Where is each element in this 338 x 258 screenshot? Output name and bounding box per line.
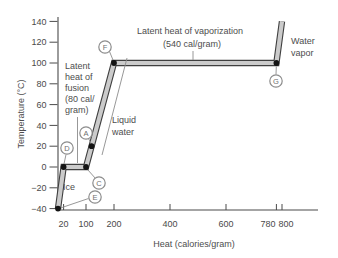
curve-dot-e	[55, 206, 61, 212]
point-f-leader	[110, 52, 114, 61]
x-tick-label: 800	[278, 219, 293, 229]
fusion-label: Latent heat of fusion (80 cal/ gram)	[65, 61, 95, 115]
fusion-label-line3: fusion	[65, 83, 89, 93]
point-marker-c: C	[93, 177, 105, 189]
fusion-label-line2: heat of	[65, 72, 93, 82]
fusion-label-line5: gram)	[65, 105, 89, 115]
point-marker-f: F	[99, 41, 111, 53]
y-tick-label: 80	[36, 79, 46, 89]
curve-dot-c	[83, 164, 89, 170]
point-marker-g: G	[270, 75, 282, 87]
liquid-water-label-line1: Liquid	[112, 115, 136, 125]
curve-dot-g	[274, 60, 280, 66]
y-tick-label: 100	[31, 58, 46, 68]
heating-curve-ribbon	[58, 21, 282, 208]
curve-dot-f	[111, 60, 117, 66]
heating-curve-chart: 140120100806040200−20−402010020040060078…	[0, 0, 338, 258]
point-d-leader	[64, 155, 66, 165]
point-marker-d: D	[61, 142, 73, 154]
x-tick-label: 200	[106, 219, 121, 229]
y-tick-label: 140	[31, 17, 46, 27]
y-tick-label: 20	[36, 141, 46, 151]
y-tick-label: −20	[31, 183, 46, 193]
point-d-label: D	[64, 144, 70, 153]
x-tick-label: 400	[162, 219, 177, 229]
y-axis-title: Temperature (°C)	[16, 79, 26, 148]
point-e-label: E	[92, 193, 97, 202]
fusion-label-line1: Latent	[65, 61, 91, 71]
point-c-label: C	[96, 179, 102, 188]
curve-dot-d	[61, 164, 67, 170]
water-vapor-label-line1: Water	[291, 36, 315, 46]
x-tick-label: 600	[218, 219, 233, 229]
liquid-water-label-line2: water	[111, 127, 134, 137]
curve-dot-a	[89, 143, 95, 149]
point-marker-e: E	[89, 191, 101, 203]
x-tick-label: 100	[78, 219, 93, 229]
x-tick-label: 20	[59, 219, 69, 229]
curve-outline	[58, 21, 282, 208]
x-axis-title: Heat (calories/gram)	[153, 239, 235, 249]
water-vapor-label-line2: vapor	[291, 48, 314, 58]
y-tick-label: 40	[36, 121, 46, 131]
y-tick-label: −40	[31, 204, 46, 214]
point-e-leader	[61, 199, 89, 209]
y-tick-label: 0	[41, 162, 46, 172]
y-tick-label: 60	[36, 100, 46, 110]
point-c-leader	[88, 170, 96, 179]
fusion-label-line4: (80 cal/	[65, 94, 95, 104]
point-a-label: A	[83, 129, 88, 138]
x-tick-label: 780	[260, 219, 275, 229]
ice-label: Ice	[63, 182, 75, 192]
y-tick-label: 120	[31, 37, 46, 47]
point-g-label: G	[273, 77, 279, 86]
point-marker-a: A	[80, 127, 92, 139]
heating-curve-figure: 140120100806040200−20−402010020040060078…	[0, 0, 338, 258]
point-f-label: F	[103, 43, 108, 52]
curve-core	[58, 21, 282, 208]
vaporization-label-line2: (540 cal/gram)	[163, 39, 221, 49]
vaporization-label-line1: Latent heat of vaporization	[137, 26, 243, 36]
